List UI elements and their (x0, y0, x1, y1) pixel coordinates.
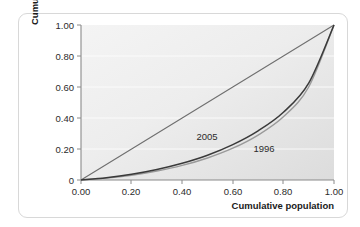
y-tick-label-0: 0 (69, 175, 74, 186)
x-axis-ticks (81, 180, 334, 184)
curve-annotation-2005: 2005 (196, 131, 217, 142)
y-axis-ticks (77, 25, 81, 180)
y-axis-title: Cumulative income (29, 0, 40, 25)
y-tick-label-0.40: 0.40 (56, 113, 75, 124)
x-axis-title: Cumulative population (232, 200, 335, 211)
y-tick-label-0.60: 0.60 (56, 82, 75, 93)
x-tick-label-0.80: 0.80 (274, 186, 293, 197)
x-tick-label-0.00: 0.00 (72, 186, 91, 197)
curve-annotation-1996: 1996 (253, 143, 274, 154)
x-tick-label-0.20: 0.20 (122, 186, 141, 197)
x-tick-label-1.00: 1.00 (325, 186, 344, 197)
y-tick-label-1.00: 1.00 (56, 20, 75, 31)
x-tick-label-0.60: 0.60 (224, 186, 243, 197)
lorenz-curve-chart: 1.00 0.80 0.60 0.40 0.20 0 0.00 0.20 0.4… (0, 0, 360, 227)
x-tick-label-0.40: 0.40 (173, 186, 192, 197)
y-tick-label-0.20: 0.20 (56, 144, 75, 155)
y-tick-label-0.80: 0.80 (56, 51, 75, 62)
